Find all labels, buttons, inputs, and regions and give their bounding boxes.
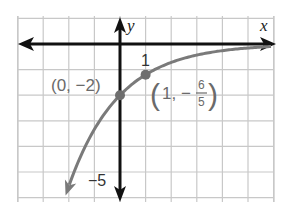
point-label-0: (0, −2) [51,76,101,95]
y-tick-label-neg5: −5 [88,172,106,189]
x-tick-label-1: 1 [141,52,150,69]
point-label-1: ( 1, − 6 5 ) [150,78,218,111]
function-curve [69,47,271,185]
point-label-1-numerator: 6 [198,78,205,92]
y-axis-label: y [125,16,135,35]
point-label-1-text: 1, − [162,84,191,103]
axes [18,17,276,202]
x-axis-label: x [259,16,268,35]
exponential-graph: x y 1 −5 (0, −2) ( 1, − 6 5 ) [0,0,288,219]
point-label-1-denominator: 5 [198,95,205,109]
point-label-1-paren-close: ) [208,78,218,111]
data-point [115,90,125,100]
point-label-1-paren-open: ( [150,78,160,111]
